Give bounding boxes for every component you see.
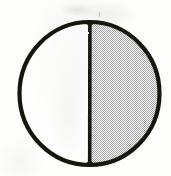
figure-canvas: Half-shaded circle Hand-drawn ink circle…: [0, 0, 171, 176]
half-shaded-circle-figure: Half-shaded circle Hand-drawn ink circle…: [0, 0, 171, 176]
ink-blot-bottom: [86, 162, 93, 167]
left-half-blank-region: [14, 18, 90, 170]
right-half-shaded-region: [90, 18, 166, 170]
ink-blot-top: [87, 21, 93, 25]
